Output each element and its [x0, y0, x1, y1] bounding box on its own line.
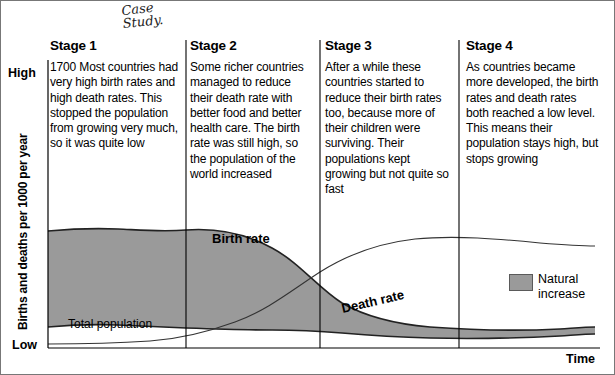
legend-label-natural-increase: Natural increase — [538, 272, 608, 302]
stage-4-title: Stage 4 — [466, 38, 513, 53]
total-population-label: Total population — [68, 317, 152, 331]
legend-swatch-natural-increase — [509, 274, 533, 291]
stage-1-text: 1700 Most countries had very high birth … — [50, 60, 178, 152]
y-axis-label: Births and deaths per 1000 per year — [16, 134, 30, 330]
birth-rate-label: Birth rate — [212, 231, 270, 246]
stage-3-text: After a while these countries started to… — [325, 60, 453, 198]
stage-3-title: Stage 3 — [325, 38, 372, 53]
stage-2-title: Stage 2 — [190, 38, 237, 53]
x-axis-label: Time — [566, 352, 595, 366]
y-axis-high-tick: High — [8, 66, 36, 80]
dtm-diagram: Case Study. Stage 1 1700 Most countries … — [0, 0, 615, 375]
stage-4-text: As countries became more developed, the … — [466, 60, 600, 167]
y-axis-low-tick: Low — [12, 338, 37, 352]
stage-2-text: Some richer countries managed to reduce … — [190, 60, 316, 182]
stage-1-title: Stage 1 — [50, 38, 97, 53]
handwritten-annotation: Case Study. — [121, 0, 164, 30]
